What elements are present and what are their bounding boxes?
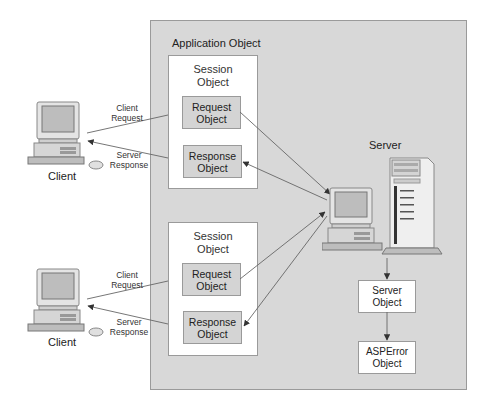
client-computer-icon-2	[26, 267, 106, 339]
server-label: Server	[369, 139, 401, 151]
client-label-2: Client	[32, 336, 92, 348]
server-to-response-arrow-1	[243, 162, 327, 200]
client-label-1: Client	[32, 170, 92, 182]
server-computer-icon	[322, 154, 446, 258]
server-response-label-2: Server Response	[104, 317, 154, 337]
server-to-response-arrow-2	[244, 216, 327, 326]
request-to-server-arrow-1	[240, 112, 330, 194]
request-to-server-arrow-2	[240, 212, 325, 279]
client-request-label-1: Client Request	[102, 103, 152, 123]
server-response-label-1: Server Response	[104, 150, 154, 170]
client-computer-icon-1	[26, 100, 106, 172]
client-request-label-2: Client Request	[102, 270, 152, 290]
